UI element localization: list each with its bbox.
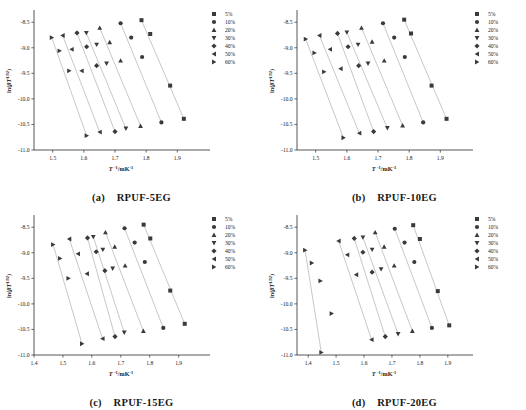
data-point-diamond: [94, 63, 99, 68]
panel-caption-name-d: RPUF-20EG: [377, 397, 437, 408]
fit-line-20pct: [100, 28, 141, 126]
panel-c: 1.41.51.61.71.81.9-8.5-9.0-9.5-10.0-10.5…: [0, 205, 263, 410]
y-tick-label: -10.5: [18, 326, 30, 332]
legend-label-50pct: 50%: [488, 256, 499, 262]
x-tick-label: 1.5: [312, 155, 319, 161]
data-point-diamond: [352, 236, 357, 241]
y-tick-label: -9.5: [284, 275, 293, 281]
data-point-triangle-left: [212, 257, 216, 262]
x-tick-label: 1.9: [174, 155, 181, 161]
legend-label-30pct: 30%: [488, 35, 499, 41]
data-point-triangle-down: [91, 235, 96, 239]
data-point-triangle-right: [312, 50, 316, 55]
x-tick-label: 1.9: [444, 360, 451, 366]
x-tick-label: 1.7: [117, 360, 124, 366]
data-point-square: [475, 217, 479, 221]
data-point-diamond: [371, 129, 376, 134]
fit-line-20pct: [105, 232, 143, 331]
legend-label-60pct: 60%: [225, 264, 236, 270]
fit-line-10pct: [121, 23, 162, 122]
data-point-triangle-down: [370, 248, 375, 252]
y-tick-label: -10.5: [281, 121, 293, 127]
data-point-triangle-left: [475, 52, 479, 57]
data-point-diamond: [211, 248, 216, 253]
legend-label-5pct: 5%: [225, 11, 233, 17]
data-point-triangle-up: [138, 124, 143, 128]
data-point-triangle-left: [76, 251, 80, 256]
y-tick-label: -9.5: [21, 70, 30, 76]
plot-area-d: 1.41.51.61.71.81.9-8.5-9.0-9.5-10.0-10.5…: [263, 205, 526, 387]
data-point-diamond: [360, 250, 365, 255]
x-tick-label: 1.6: [343, 155, 350, 161]
y-axis-label: ln(βT1.92): [268, 274, 277, 298]
data-point-triangle-down: [124, 127, 129, 131]
legend-label-20pct: 20%: [225, 232, 236, 238]
data-point-triangle-up: [359, 25, 364, 29]
panel-caption-label-d: (d): [352, 397, 365, 408]
x-tick-label: 1.8: [416, 360, 423, 366]
data-point-square: [475, 12, 479, 16]
fit-line-5pct: [141, 20, 183, 119]
data-point-square: [183, 322, 187, 326]
x-tick-label: 1.9: [175, 360, 182, 366]
data-point-triangle-up: [370, 39, 375, 43]
fit-line-40pct: [354, 238, 385, 336]
axis-lines: [297, 10, 473, 150]
data-point-circle: [412, 260, 416, 264]
data-point-circle: [475, 20, 479, 24]
data-point-square: [447, 323, 451, 327]
data-point-triangle-right: [66, 276, 70, 281]
x-axis-label: T -1/mK-1: [109, 165, 133, 173]
legend-label-5pct: 5%: [488, 216, 496, 222]
panel-caption-c: (c) RPUF-15EG: [0, 397, 263, 408]
fit-line-60pct: [53, 245, 82, 344]
data-point-diamond: [345, 44, 350, 49]
data-point-circle: [129, 35, 133, 39]
data-point-triangle-up: [112, 244, 117, 248]
data-point-square: [430, 84, 434, 88]
x-tick-label: 1.4: [305, 360, 312, 366]
data-point-triangle-left: [475, 257, 479, 262]
x-tick-label: 1.6: [80, 155, 87, 161]
data-point-triangle-left: [85, 271, 89, 276]
data-point-triangle-down: [366, 62, 371, 66]
panel-caption-name-b: RPUF-10EG: [377, 192, 437, 203]
data-point-diamond: [211, 43, 216, 48]
legend-label-20pct: 20%: [488, 27, 499, 33]
x-tick-label: 1.9: [437, 155, 444, 161]
data-point-square: [142, 223, 146, 227]
legend-label-50pct: 50%: [225, 256, 236, 262]
x-tick-label: 1.7: [388, 360, 395, 366]
legend-label-10pct: 10%: [488, 224, 499, 230]
data-point-diamond: [383, 334, 388, 339]
panel-caption-name-a: RPUF-5EG: [117, 192, 171, 203]
data-point-diamond: [370, 270, 375, 275]
data-point-diamond: [474, 43, 479, 48]
plot-area-c: 1.41.51.61.71.81.9-8.5-9.0-9.5-10.0-10.5…: [0, 205, 263, 387]
legend-label-40pct: 40%: [488, 248, 499, 254]
legend-label-30pct: 30%: [225, 35, 236, 41]
panel-a: 1.51.61.71.81.9-8.5-9.0-9.5-10.0-10.5-11…: [0, 0, 263, 205]
data-point-triangle-down: [475, 241, 480, 245]
data-point-circle: [140, 55, 144, 59]
x-tick-label: 1.8: [143, 155, 150, 161]
data-point-circle: [421, 120, 425, 124]
data-point-circle: [159, 120, 163, 124]
chart-svg-d: 1.41.51.61.71.81.9-8.5-9.0-9.5-10.0-10.5…: [263, 205, 526, 387]
fit-line-40pct: [88, 238, 115, 337]
data-point-circle: [402, 240, 406, 244]
y-tick-label: -11.0: [18, 352, 30, 358]
y-tick-label: -8.5: [284, 19, 293, 25]
data-point-triangle-down: [100, 248, 105, 252]
legend-label-20pct: 20%: [488, 232, 499, 238]
y-tick-label: -10.0: [18, 301, 30, 307]
data-point-square: [168, 84, 172, 88]
data-point-triangle-down: [212, 36, 217, 40]
y-tick-label: -9.0: [21, 45, 30, 51]
y-tick-label: -10.0: [281, 96, 293, 102]
panel-caption-label-b: (b): [352, 192, 365, 203]
data-point-square: [182, 117, 186, 121]
data-point-triangle-down: [475, 36, 480, 40]
data-point-triangle-left: [67, 237, 71, 242]
data-point-triangle-right: [85, 133, 89, 138]
